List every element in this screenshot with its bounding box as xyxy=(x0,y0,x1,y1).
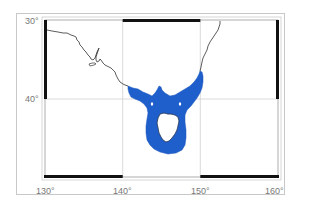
lon-label-130: 130° xyxy=(36,186,55,196)
lon-label-140: 140° xyxy=(113,186,132,196)
lon-label-150: 150° xyxy=(191,186,210,196)
lat-label-30: 30° xyxy=(25,16,39,26)
flinders-island xyxy=(179,102,181,106)
frame-bar-left-30-40 xyxy=(44,20,47,99)
frame-bar-bottom-130-140 xyxy=(44,175,123,178)
lat-label-40: 40° xyxy=(25,94,39,104)
frame-bar-top-140-150 xyxy=(123,19,201,22)
frame-bar-right-30-40 xyxy=(276,20,279,99)
frame-bar-bottom-150-160 xyxy=(200,175,279,178)
lon-label-160: 160° xyxy=(265,186,284,196)
king-island xyxy=(151,102,153,106)
